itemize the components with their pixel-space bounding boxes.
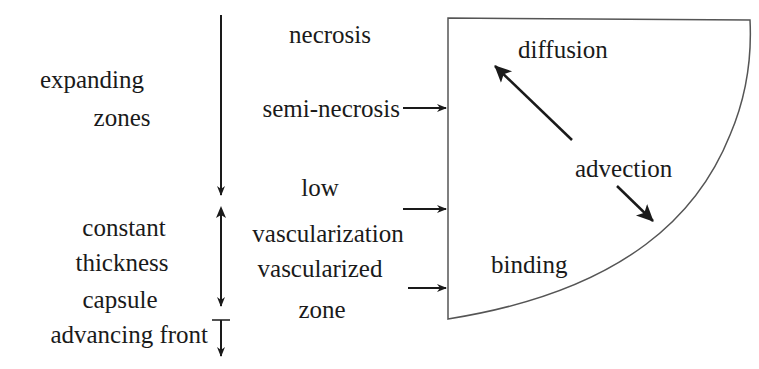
label-thickness: thickness <box>75 250 168 275</box>
label-constant: constant <box>82 215 165 240</box>
label-binding: binding <box>491 252 567 277</box>
label-necrosis: necrosis <box>289 22 371 47</box>
label-diffusion: diffusion <box>518 37 608 62</box>
label-expanding: expanding <box>40 67 144 92</box>
label-semi-necrosis: semi-necrosis <box>263 96 400 121</box>
diagram-canvas <box>0 0 759 369</box>
label-vascularization: vascularization <box>252 221 403 246</box>
label-capsule: capsule <box>83 287 158 312</box>
label-zone: zone <box>298 297 345 322</box>
label-advection: advection <box>575 156 672 181</box>
label-advancing-front: advancing front <box>50 322 208 347</box>
label-zones: zones <box>94 105 151 130</box>
label-low: low <box>301 175 339 200</box>
label-vascularized: vascularized <box>258 256 383 281</box>
